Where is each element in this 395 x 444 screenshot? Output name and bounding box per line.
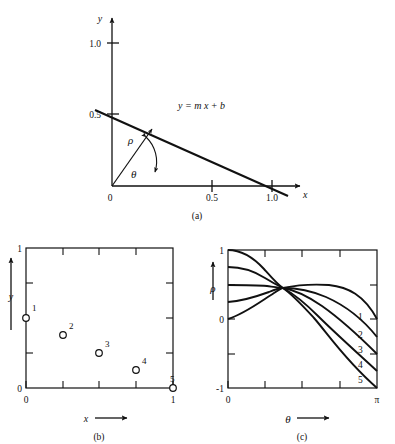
panel-b-point-5: 5 — [170, 374, 177, 391]
panel-c: 1 0 -1 0 π ρ θ 1 2 3 4 5 (c) — [209, 246, 379, 443]
panel-a-theta-arc — [146, 137, 157, 172]
panel-b-x-axis-label: x — [83, 413, 89, 424]
point-marker — [96, 350, 103, 357]
point-label: 3 — [105, 339, 110, 349]
panel-a-line — [95, 110, 288, 196]
panel-c-curve-label-1: 1 — [358, 312, 363, 322]
panel-b-point-2: 2 — [60, 321, 74, 338]
panel-a-line-equation: y = m x + b — [177, 100, 225, 111]
panel-a-ytick-label-1: 1.0 — [89, 39, 101, 49]
panel-c-ytick-label-neg1: -1 — [216, 384, 224, 394]
panel-a-rho-label: ρ — [127, 134, 133, 146]
panel-a-x-axis-label: x — [302, 189, 308, 200]
panel-c-ytick-label-1: 1 — [219, 246, 224, 256]
point-marker — [133, 367, 140, 374]
point-label: 5 — [170, 374, 175, 384]
panel-a-xtick-label-1: 1.0 — [266, 193, 278, 203]
panel-a: y x 1.0 0.5 0 0.5 1.0 ρ θ y = m x + b (a… — [89, 13, 308, 222]
panel-c-curve-label-2: 2 — [358, 330, 363, 340]
panel-a-xtick-label-0: 0.5 — [206, 193, 218, 203]
panel-c-x-axis-label: θ — [285, 413, 291, 425]
panel-b-xtick-label-left: 0 — [24, 395, 29, 405]
panel-b-point-3: 3 — [96, 339, 110, 356]
panel-c-ytick-label-0: 0 — [219, 315, 224, 325]
panel-a-caption: (a) — [192, 211, 203, 222]
panel-b: 1 0 0 1 y x 1 2 3 4 5 (b) — [8, 244, 177, 443]
panel-a-theta-label: θ — [131, 168, 137, 180]
point-label: 2 — [69, 321, 74, 331]
point-marker — [23, 315, 30, 322]
panel-c-xtick-label-0: 0 — [226, 395, 231, 405]
panel-c-curve-label-3: 3 — [358, 345, 363, 355]
point-label: 1 — [32, 303, 37, 313]
panel-c-caption: (c) — [297, 432, 308, 443]
point-marker — [170, 385, 177, 392]
panel-b-plot-frame — [26, 248, 173, 388]
panel-b-xtick-label-right: 1 — [171, 395, 176, 405]
point-marker — [60, 332, 67, 339]
panel-b-caption: (b) — [93, 432, 104, 443]
panel-b-ytick-label-bottom: 0 — [17, 384, 22, 394]
panel-a-y-axis-label: y — [97, 13, 103, 24]
panel-b-point-1: 1 — [23, 303, 37, 321]
panel-b-ytick-label-top: 1 — [17, 244, 22, 254]
panel-c-curve-label-5: 5 — [358, 375, 363, 385]
panel-c-y-axis-label: ρ — [209, 282, 215, 294]
panel-a-origin-label: 0 — [108, 193, 113, 203]
panel-c-curve-3 — [228, 285, 377, 354]
panel-c-curve-2 — [228, 267, 377, 371]
point-label: 4 — [142, 356, 147, 366]
panel-c-xtick-label-pi: π — [375, 395, 380, 405]
panel-b-point-4: 4 — [133, 356, 147, 373]
panel-c-curve-label-4: 4 — [358, 360, 363, 370]
figure-hough-transform: y x 1.0 0.5 0 0.5 1.0 ρ θ y = m x + b (a… — [0, 0, 395, 444]
panel-b-y-axis-label: y — [8, 291, 14, 302]
